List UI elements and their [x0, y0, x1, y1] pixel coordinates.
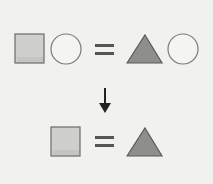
equals-sign [95, 135, 115, 149]
square-shape [14, 33, 46, 65]
equals-sign [95, 43, 115, 57]
triangle-shape [126, 33, 164, 65]
circle-shape [166, 32, 200, 66]
circle-shape [49, 32, 83, 66]
down-arrow-icon [98, 88, 112, 114]
square-shape [50, 126, 82, 158]
triangle-shape [126, 126, 164, 158]
